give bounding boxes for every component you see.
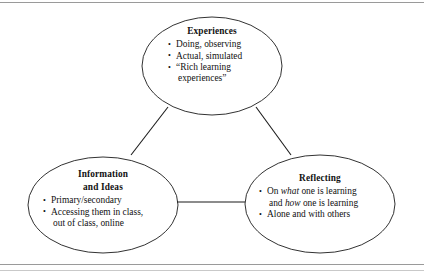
bullet-text-continued: and how one is learning <box>267 198 395 209</box>
bullet-text-line2-pre: and <box>269 198 285 208</box>
reflecting-bullet-list: On what one is learning and how one is l… <box>245 186 395 220</box>
node-experiences[interactable]: Experiences Doing, observing Actual, sim… <box>142 17 282 115</box>
bullet-emphasis-what: what <box>281 186 299 196</box>
list-item: Doing, observing <box>168 39 282 50</box>
bullet-text-line2-post: one is learning <box>301 198 359 208</box>
bottom-horizontal-rule-secondary <box>0 270 424 271</box>
bullet-text-mid: one is learning <box>299 186 357 196</box>
information-bullet-list: Primary/secondary Accessing them in clas… <box>28 195 178 229</box>
reflecting-title: Reflecting <box>245 173 395 184</box>
information-title-line-1: Information <box>28 169 178 180</box>
bullet-text: Actual, simulated <box>176 51 242 61</box>
bullet-text: “Rich learning <box>176 62 231 72</box>
bullet-text: Primary/secondary <box>51 195 122 205</box>
list-item: “Rich learning experiences” <box>168 62 282 85</box>
node-reflecting[interactable]: Reflecting On what one is learning and h… <box>245 155 395 253</box>
list-item: Primary/secondary <box>43 195 178 206</box>
bullet-emphasis-how: how <box>285 198 301 208</box>
list-item: Accessing them in class, out of class, o… <box>43 207 178 230</box>
bullet-text-continued: experiences” <box>176 73 282 84</box>
bullet-text: Doing, observing <box>176 39 241 49</box>
experiences-bullet-list: Doing, observing Actual, simulated “Rich… <box>142 39 282 85</box>
figure-frame: Experiences Doing, observing Actual, sim… <box>0 0 424 272</box>
information-title-line-2: and Ideas <box>28 182 178 193</box>
bullet-text: Alone and with others <box>267 209 350 219</box>
bullet-text-pre: On <box>267 186 281 196</box>
bottom-horizontal-rule <box>0 264 424 265</box>
node-information-and-ideas[interactable]: Information and Ideas Primary/secondary … <box>28 157 178 253</box>
experiences-title: Experiences <box>142 26 282 37</box>
list-item: On what one is learning and how one is l… <box>259 186 395 209</box>
bullet-text: Accessing them in class, <box>51 207 143 217</box>
bullet-text-continued: out of class, online <box>51 218 178 229</box>
list-item: Alone and with others <box>259 209 395 220</box>
list-item: Actual, simulated <box>168 51 282 62</box>
